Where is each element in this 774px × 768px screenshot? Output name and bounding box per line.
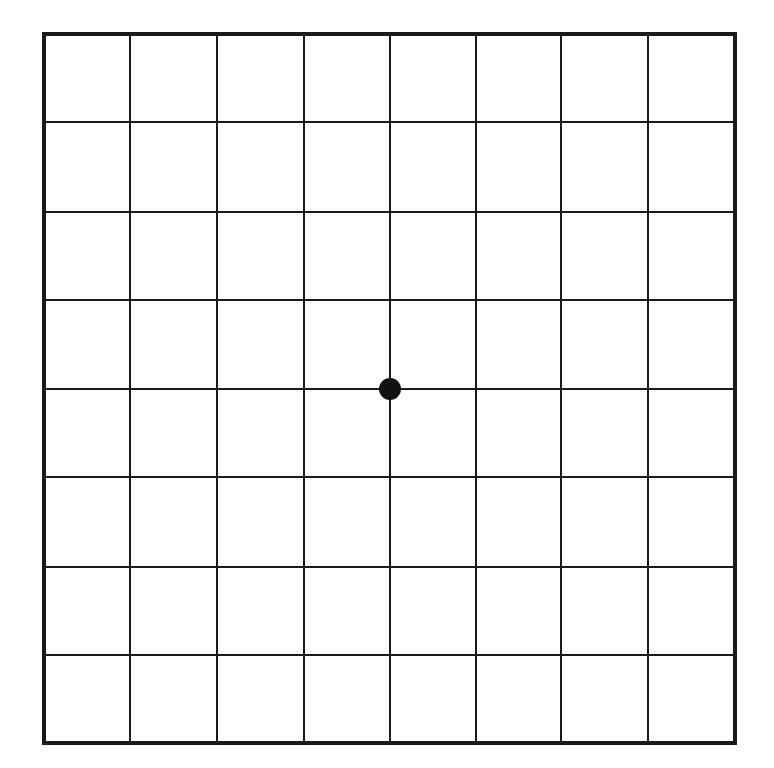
amsler-grid	[0, 0, 774, 768]
center-fixation-dot	[379, 378, 401, 400]
